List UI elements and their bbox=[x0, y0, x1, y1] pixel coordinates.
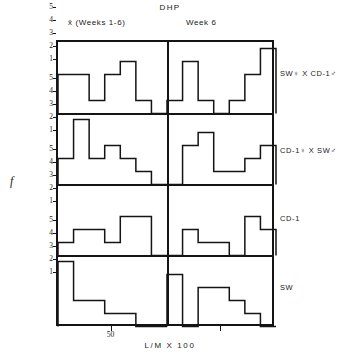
plot-grid bbox=[56, 40, 274, 326]
row-label-cd1: CD-1 bbox=[280, 214, 300, 223]
column-header-week6: Week 6 bbox=[186, 18, 217, 27]
panel-cd1-mean bbox=[58, 184, 167, 256]
row-label-cd1f-swm: CD-1♀ X SW♂ bbox=[280, 146, 337, 155]
y-tick-mark bbox=[53, 259, 56, 260]
panel-cd1f-swm-week6 bbox=[167, 113, 276, 185]
row-label-sw: SW bbox=[280, 283, 293, 292]
x-tick-label: 50 bbox=[107, 330, 115, 339]
y-tick-mark bbox=[53, 233, 56, 234]
y-tick-mark bbox=[53, 175, 56, 176]
row-label-swf-cd1m: SW♀ X CD-1♂ bbox=[280, 69, 337, 78]
panel-sw-mean bbox=[58, 255, 167, 327]
y-tick-mark bbox=[53, 59, 56, 60]
y-tick-mark bbox=[53, 46, 56, 47]
y-tick-mark bbox=[53, 7, 56, 8]
panel-sw-week6 bbox=[167, 255, 276, 327]
y-tick-mark bbox=[53, 272, 56, 273]
panel-cd1f-swm-mean bbox=[58, 113, 167, 185]
y-axis-ticks: 54321543215432154321 bbox=[0, 0, 56, 286]
y-tick-mark bbox=[53, 149, 56, 150]
panel-cd1-week6 bbox=[167, 184, 276, 256]
x-tick-mark bbox=[220, 326, 222, 331]
y-tick-mark bbox=[53, 188, 56, 189]
y-tick-mark bbox=[53, 33, 56, 34]
y-tick-mark bbox=[53, 130, 56, 131]
y-tick-mark bbox=[53, 91, 56, 92]
y-tick-mark bbox=[53, 220, 56, 221]
y-tick-mark bbox=[53, 104, 56, 105]
y-tick-mark bbox=[53, 246, 56, 247]
y-tick-mark bbox=[53, 201, 56, 202]
x-axis-label: L/M X 100 bbox=[0, 341, 340, 350]
column-header-mean-weeks: x̄ (Weeks 1-6) bbox=[68, 18, 125, 27]
panel-swf-cd1m-mean bbox=[58, 42, 167, 114]
panel-swf-cd1m-week6 bbox=[167, 42, 276, 114]
y-tick-mark bbox=[53, 78, 56, 79]
y-tick-mark bbox=[53, 162, 56, 163]
figure-container: DHP x̄ (Weeks 1-6) Week 6 f L/M X 100 54… bbox=[0, 0, 340, 361]
y-tick-mark bbox=[53, 117, 56, 118]
y-tick-mark bbox=[53, 20, 56, 21]
